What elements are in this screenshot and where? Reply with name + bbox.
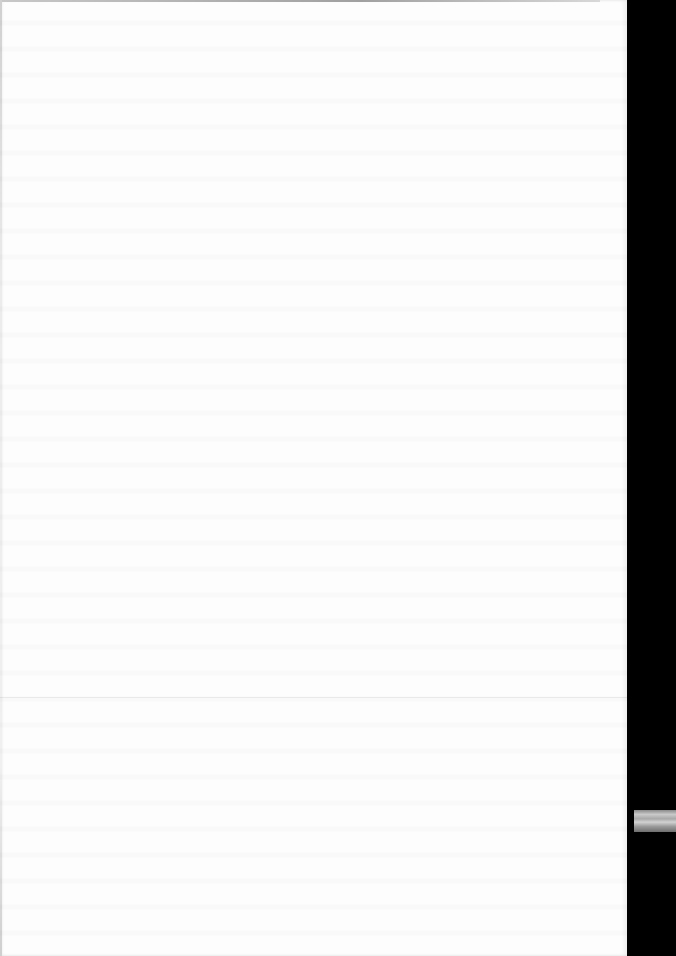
faint-horizontal-rule [0,697,627,698]
scanner-edge-tab [634,810,676,832]
bleed-through-texture [0,0,627,956]
scan-background [0,0,676,956]
blank-page [0,0,627,956]
